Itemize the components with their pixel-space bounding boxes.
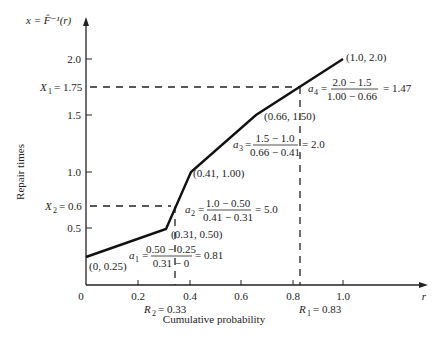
y-axis-title: Repair times [14, 144, 26, 200]
svg-text:2: 2 [191, 209, 195, 218]
y-tick-label: 1.0 [67, 166, 81, 178]
svg-text:0.50 − 0.25: 0.50 − 0.25 [146, 243, 197, 255]
x1-label: X 1 = 1.75 [39, 81, 83, 96]
svg-text:= 0.33: = 0.33 [158, 303, 187, 315]
x-tick-label: 0.4 [183, 290, 197, 302]
svg-text:= 5.0: = 5.0 [255, 203, 278, 215]
y-tick-label: 0.5 [67, 222, 81, 234]
svg-text:0.41 − 0.31: 0.41 − 0.31 [203, 211, 253, 223]
svg-text:1.5 − 1.0: 1.5 − 1.0 [255, 132, 295, 144]
svg-text:1.00 − 0.66: 1.00 − 0.66 [327, 90, 378, 102]
svg-text:4: 4 [314, 88, 318, 97]
x-tick-label: 0.8 [286, 290, 300, 302]
svg-text:R: R [298, 303, 306, 315]
point-label: (0, 0.25) [89, 260, 127, 273]
inverse-cdf-chart: 2.0 1.5 1.0 0.5 0 0.2 0.4 0.6 0.8 1.0 r … [0, 0, 441, 337]
svg-text:= 2.0: = 2.0 [302, 138, 325, 150]
svg-text:0.31 − 0: 0.31 − 0 [153, 257, 190, 269]
x-tick-label: 1.0 [336, 290, 350, 302]
x-tick-label: 0.6 [234, 290, 248, 302]
x-ticks [138, 280, 343, 285]
y-ticks [86, 59, 92, 228]
svg-text:1: 1 [307, 309, 311, 318]
svg-text:= 1.47: = 1.47 [383, 82, 412, 94]
svg-text:1: 1 [135, 255, 139, 264]
svg-text:R: R [143, 303, 151, 315]
slope-a2: a 2 = 1.0 − 0.50 0.41 − 0.31 = 5.0 [185, 197, 278, 223]
y-tick-label: 2.0 [67, 53, 81, 65]
slope-a1: a 1 = 0.50 − 0.25 0.31 − 0 = 0.81 [129, 243, 223, 269]
origin-label: 0 [78, 290, 84, 302]
svg-text:= 0.83: = 0.83 [313, 303, 342, 315]
svg-text:2: 2 [152, 309, 156, 318]
y-axis-arrow-icon [83, 17, 89, 26]
svg-text:0.66 − 0.41: 0.66 − 0.41 [250, 146, 300, 158]
r1-label: R 1 = 0.83 [298, 303, 342, 318]
svg-text:= 0.81: = 0.81 [195, 249, 223, 261]
slope-a3: a 3 = 1.5 − 1.0 0.66 − 0.41 = 2.0 [233, 132, 325, 158]
svg-text:X: X [39, 81, 48, 93]
svg-text:= 1.75: = 1.75 [54, 81, 83, 93]
x-axis-end-label: r [422, 290, 427, 302]
y-axis-top-label: x = F̂⁻¹(r) [25, 14, 72, 27]
svg-text:X: X [44, 200, 53, 212]
point-label: (1.0, 2.0) [346, 51, 387, 64]
svg-text:1.0 − 0.50: 1.0 − 0.50 [206, 197, 251, 209]
point-label: (0.66, 1.50) [264, 110, 316, 123]
point-label: (0.41, 1.00) [193, 167, 245, 180]
point-label: (0.31, 0.50) [171, 228, 223, 241]
svg-text:1: 1 [48, 87, 52, 96]
svg-text:3: 3 [239, 144, 243, 153]
svg-text:2: 2 [53, 206, 57, 215]
y-tick-label: 1.5 [67, 109, 81, 121]
svg-text:2.0 − 1.5: 2.0 − 1.5 [332, 76, 372, 88]
x-axis-arrow-icon [419, 282, 428, 288]
svg-text:= 0.6: = 0.6 [59, 200, 82, 212]
slope-a4: a 4 = 2.0 − 1.5 1.00 − 0.66 = 1.47 [308, 76, 412, 102]
x-tick-label: 0.2 [131, 290, 145, 302]
x2-label: X 2 = 0.6 [44, 200, 82, 215]
